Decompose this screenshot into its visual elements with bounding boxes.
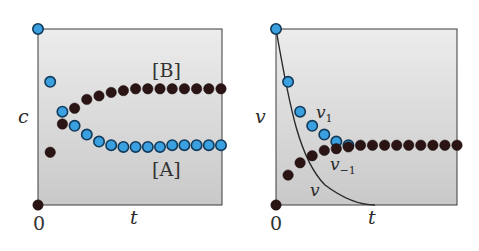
- data-point: [155, 84, 165, 94]
- data-point: [179, 140, 189, 150]
- left-plot-area: [38, 29, 222, 205]
- data-point: [216, 140, 226, 150]
- data-point: [379, 140, 389, 150]
- data-point: [452, 140, 462, 150]
- right-y-axis-label: v: [255, 105, 266, 127]
- data-point: [191, 140, 201, 150]
- figure: c t 0 [B] [A] v t 0 v1 v−1 v: [0, 0, 479, 251]
- data-point: [307, 121, 317, 131]
- data-point: [45, 147, 55, 157]
- data-point: [155, 142, 165, 152]
- data-point: [355, 140, 365, 150]
- data-point: [33, 24, 43, 34]
- data-point: [69, 121, 79, 131]
- data-point: [82, 94, 92, 104]
- annotation-v: v: [310, 180, 320, 200]
- left-x-axis-label: t: [130, 206, 138, 228]
- data-point: [130, 84, 140, 94]
- data-point: [82, 129, 92, 139]
- data-point: [295, 107, 305, 117]
- data-point: [57, 119, 67, 129]
- data-point: [118, 142, 128, 152]
- data-point: [45, 77, 55, 87]
- data-point: [118, 85, 128, 95]
- data-point: [319, 145, 329, 155]
- data-point: [331, 144, 341, 154]
- data-point: [416, 140, 426, 150]
- left-chart: c t 0 [B] [A]: [18, 24, 226, 234]
- data-point: [428, 140, 438, 150]
- data-point: [283, 170, 293, 180]
- data-point: [319, 129, 329, 139]
- data-point: [143, 84, 153, 94]
- data-point: [307, 151, 317, 161]
- right-plot-area: [276, 29, 457, 205]
- data-point: [440, 140, 450, 150]
- data-point: [283, 77, 293, 87]
- data-point: [143, 142, 153, 152]
- data-point: [404, 140, 414, 150]
- right-x-axis-label: t: [368, 206, 376, 228]
- data-point: [179, 84, 189, 94]
- data-point: [204, 84, 214, 94]
- data-point: [216, 84, 226, 94]
- data-point: [271, 200, 281, 210]
- data-point: [69, 103, 79, 113]
- data-point: [94, 91, 104, 101]
- data-point: [57, 107, 67, 117]
- data-point: [367, 140, 377, 150]
- data-point: [33, 200, 43, 210]
- annotation-B: [B]: [152, 59, 181, 81]
- data-point: [343, 142, 353, 152]
- data-point: [271, 24, 281, 34]
- data-point: [191, 84, 201, 94]
- data-point: [106, 87, 116, 97]
- data-point: [204, 140, 214, 150]
- data-point: [130, 142, 140, 152]
- data-point: [167, 140, 177, 150]
- right-chart: v t 0 v1 v−1 v: [255, 24, 462, 234]
- data-point: [392, 140, 402, 150]
- annotation-A: [A]: [152, 158, 181, 180]
- data-point: [167, 84, 177, 94]
- right-origin-label: 0: [270, 212, 282, 234]
- data-point: [295, 158, 305, 168]
- left-y-axis-label: c: [18, 105, 29, 127]
- data-point: [94, 136, 104, 146]
- left-origin-label: 0: [33, 212, 45, 234]
- data-point: [106, 140, 116, 150]
